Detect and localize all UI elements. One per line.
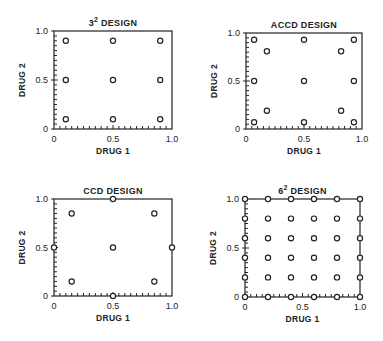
x-tick-label: 0 [51, 301, 56, 311]
design-point [288, 236, 293, 241]
design-point [265, 275, 270, 280]
design-point [110, 196, 115, 201]
design-point [242, 275, 247, 280]
design-point [63, 38, 68, 43]
x-tick-label: 0 [243, 134, 248, 144]
design-point [242, 255, 247, 260]
design-point [311, 294, 316, 299]
panel-title: 32 DESIGN [89, 16, 138, 28]
design-point [252, 78, 257, 83]
design-point [152, 211, 157, 216]
design-point [110, 38, 115, 43]
design-point [63, 77, 68, 82]
design-comparison-figure: 00.51.000.51.0DRUG 1DRUG 232 DESIGN 00.5… [0, 0, 383, 341]
design-point [242, 236, 247, 241]
design-point [311, 196, 316, 201]
design-point [110, 117, 115, 122]
y-tick-label: 1.0 [35, 26, 48, 36]
design-point [265, 236, 270, 241]
panel-title: ACCD DESIGN [271, 20, 337, 30]
design-point [69, 211, 74, 216]
x-tick-label: 0.5 [296, 302, 309, 312]
design-point [357, 236, 362, 241]
y-tick-label: 0.5 [226, 243, 239, 253]
x-tick-label: 0.5 [107, 301, 120, 311]
design-point [158, 117, 163, 122]
design-point [288, 255, 293, 260]
design-point [351, 120, 356, 125]
design-point [339, 108, 344, 113]
design-point [311, 275, 316, 280]
design-point [265, 294, 270, 299]
design-point [264, 108, 269, 113]
design-point [301, 120, 306, 125]
design-point [339, 49, 344, 54]
design-point [265, 255, 270, 260]
panel-6-squared-design: 00.51.000.51.0DRUG 1DRUG 262 DESIGN [208, 184, 366, 324]
y-axis-label: DRUG 2 [208, 231, 218, 265]
design-point [152, 279, 157, 284]
design-point [63, 117, 68, 122]
design-point [334, 275, 339, 280]
design-point [357, 275, 362, 280]
design-point [288, 294, 293, 299]
panel-title: 62 DESIGN [278, 184, 327, 196]
y-tick-label: 0 [234, 292, 239, 302]
design-point [110, 293, 115, 298]
y-tick-label: 1.0 [226, 194, 239, 204]
design-point [158, 38, 163, 43]
design-point [311, 236, 316, 241]
x-tick-label: 1.0 [356, 134, 369, 144]
panel-3-squared-design: 00.51.000.51.0DRUG 1DRUG 232 DESIGN [17, 16, 178, 156]
panel-title: CCD DESIGN [83, 186, 143, 196]
design-point [158, 77, 163, 82]
design-point [311, 255, 316, 260]
design-point [311, 216, 316, 221]
y-tick-label: 1.0 [35, 194, 48, 204]
y-tick-label: 0 [235, 124, 240, 134]
design-point [334, 236, 339, 241]
design-point [242, 196, 247, 201]
design-point [110, 245, 115, 250]
x-tick-label: 0.5 [107, 134, 120, 144]
design-point [264, 49, 269, 54]
design-point [357, 255, 362, 260]
design-point [357, 216, 362, 221]
panel-ccd-design: 00.51.000.51.0DRUG 1DRUG 2CCD DESIGN [17, 186, 178, 323]
x-tick-label: 1.0 [166, 134, 179, 144]
x-axis-label: DRUG 1 [96, 146, 130, 156]
design-point [301, 78, 306, 83]
plot-frame [245, 199, 360, 297]
y-axis-label: DRUG 2 [17, 231, 27, 265]
x-axis-label: DRUG 1 [287, 146, 321, 156]
design-point [334, 294, 339, 299]
design-point [301, 37, 306, 42]
design-point [334, 196, 339, 201]
y-tick-label: 0.5 [35, 243, 48, 253]
design-point [242, 294, 247, 299]
design-point [51, 245, 56, 250]
design-point [288, 216, 293, 221]
x-axis-label: DRUG 1 [96, 313, 130, 323]
x-tick-label: 0.5 [298, 134, 311, 144]
design-point [69, 279, 74, 284]
y-tick-label: 1.0 [227, 28, 240, 38]
y-axis-label: DRUG 2 [209, 64, 219, 98]
y-tick-label: 0 [43, 291, 48, 301]
design-point [351, 37, 356, 42]
design-point [169, 245, 174, 250]
x-tick-label: 1.0 [354, 302, 367, 312]
design-point [288, 196, 293, 201]
design-point [357, 196, 362, 201]
panel-accd-design: 00.51.000.51.0DRUG 1DRUG 2ACCD DESIGN [209, 20, 368, 156]
y-axis-label: DRUG 2 [17, 63, 27, 97]
x-axis-label: DRUG 1 [286, 314, 320, 324]
design-point [357, 294, 362, 299]
design-point [242, 216, 247, 221]
design-point [334, 255, 339, 260]
design-point [252, 120, 257, 125]
design-point [110, 77, 115, 82]
design-point [351, 78, 356, 83]
x-tick-label: 0 [51, 134, 56, 144]
design-point [288, 275, 293, 280]
